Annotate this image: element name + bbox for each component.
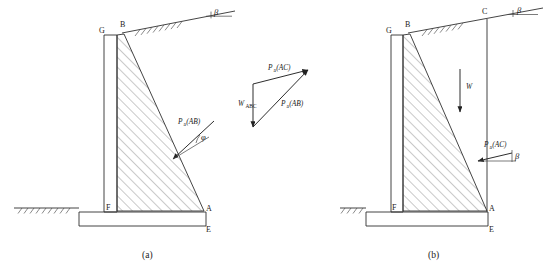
force-arrow-w-b: W xyxy=(460,69,473,112)
vector-subscript-abc: ABC xyxy=(245,103,256,109)
engineering-figure: G B F A E P a (AB) φ β (a) xyxy=(0,0,543,270)
force-symbol-p-b: P xyxy=(483,140,489,149)
soil-wedge-b xyxy=(403,34,487,211)
point-label-b-a: B xyxy=(120,20,125,29)
wall-footing-a xyxy=(79,212,206,226)
point-label-e-a: E xyxy=(206,225,211,234)
vector-label-pa-ac: P a (AC) xyxy=(267,63,291,73)
diagram-canvas: G B F A E P a (AB) φ β (a) xyxy=(0,0,543,270)
ground-hatch-a xyxy=(18,208,70,214)
point-label-f-a: F xyxy=(106,203,111,212)
force-label-pa-ac-b: P a (AC) xyxy=(483,140,507,150)
point-label-b-b: B xyxy=(405,20,410,29)
angle-label-beta-b-top: β xyxy=(516,5,522,15)
panel-caption-b: (b) xyxy=(428,250,439,261)
vector-symbol-w: W xyxy=(238,99,245,108)
panel-b: W G B C F A E P a (AC) β xyxy=(340,5,543,261)
point-label-f-b: F xyxy=(392,203,397,212)
vector-label-w-abc: W ABC xyxy=(238,99,257,109)
ground-line-b xyxy=(340,208,366,214)
force-label-pa-ab-a: P a (AB) xyxy=(177,117,201,127)
force-label-w-b: W xyxy=(466,82,473,91)
force-triangle: W ABC P a (AC) P a (AB) xyxy=(238,63,308,127)
point-label-e-b: E xyxy=(489,225,494,234)
point-label-g-a: G xyxy=(99,26,105,35)
panel-caption-a: (a) xyxy=(142,250,153,261)
ground-line-a xyxy=(14,208,79,214)
vector-arg-ab: (AB) xyxy=(289,99,303,108)
force-symbol-p-a: P xyxy=(177,117,183,126)
panel-a: G B F A E P a (AB) φ β (a) xyxy=(14,7,235,261)
angle-label-beta-a: β xyxy=(213,7,219,17)
ground-hatch-b xyxy=(341,208,363,214)
vector-symbol-p-ab: P xyxy=(280,99,286,108)
wall-footing-b xyxy=(366,212,488,226)
point-label-c-b: C xyxy=(482,7,487,16)
angle-label-phi-a: φ xyxy=(201,132,206,142)
force-arg-ab-a: (AB) xyxy=(186,117,200,126)
angle-label-beta-b-force: β xyxy=(514,151,520,161)
wall-stem-a xyxy=(104,35,117,212)
point-label-g-b: G xyxy=(386,26,392,35)
point-label-a-b: A xyxy=(489,204,495,213)
vector-label-pa-ab: P a (AB) xyxy=(280,99,304,109)
force-arrow-pa-ab xyxy=(173,121,214,159)
force-arg-ac-b: (AC) xyxy=(492,140,507,149)
wall-stem-b xyxy=(391,35,403,212)
backfill-slope-b xyxy=(408,8,543,36)
point-label-a-a: A xyxy=(206,204,212,213)
force-arrow-pa-ac-b xyxy=(478,150,516,162)
vector-symbol-p-ac: P xyxy=(267,63,273,72)
vector-arg-ac: (AC) xyxy=(276,63,291,72)
